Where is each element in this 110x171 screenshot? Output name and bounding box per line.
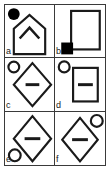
chevron-up-icon (20, 28, 40, 39)
panel-label-f: f (56, 155, 59, 164)
panel-a-graphic (5, 5, 54, 57)
figure-panel-a: a (5, 5, 55, 58)
panel-c-graphic (5, 58, 54, 110)
panel-label-b: b (56, 47, 61, 56)
figure-plate: a b c d e (4, 4, 106, 166)
filled-square-marker (61, 43, 73, 55)
figure-panel-e: e (5, 112, 55, 165)
figure-panel-f: f (55, 112, 105, 165)
figure-panel-d: d (55, 58, 105, 111)
panel-label-d: d (56, 101, 61, 110)
pentagon-house-shape (14, 15, 45, 54)
panel-e-graphic (5, 112, 54, 165)
figure-panel-b: b (55, 5, 105, 58)
panel-b-graphic (55, 5, 105, 57)
panel-label-c: c (6, 101, 11, 110)
figure-panel-c: c (5, 58, 55, 111)
filled-circle-marker (8, 8, 20, 20)
open-circle-marker (59, 62, 70, 73)
panel-label-e: e (6, 155, 11, 164)
panel-f-graphic (55, 112, 105, 165)
panel-label-a: a (6, 47, 11, 56)
open-circle-marker (8, 62, 19, 73)
panel-d-graphic (55, 58, 105, 110)
rectangle-shape (71, 11, 100, 50)
open-circle-marker (91, 115, 103, 127)
